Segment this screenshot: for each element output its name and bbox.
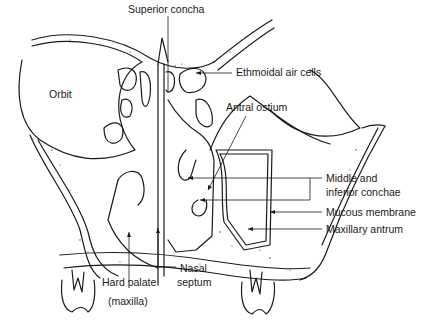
label-septum: septum: [177, 276, 211, 289]
label-maxilla: (maxilla): [108, 295, 148, 308]
anatomy-drawing: [0, 0, 427, 321]
label-middle-conchae: Middle and: [326, 172, 377, 185]
label-mucous-membrane: Mucous membrane: [326, 206, 416, 219]
label-hard-palate: Hard palate: [102, 276, 156, 289]
label-nasal: Nasal: [180, 262, 207, 275]
label-orbit: Orbit: [49, 88, 72, 101]
label-antral-ostium: Antral ostium: [226, 101, 287, 114]
label-superior-concha: Superior concha: [128, 3, 204, 16]
label-maxillary-antrum: Maxillary antrum: [326, 223, 403, 236]
label-ethmoidal-air-cells: Ethmoidal air cells: [236, 66, 321, 79]
label-inferior-conchae: inferior conchae: [326, 186, 401, 199]
